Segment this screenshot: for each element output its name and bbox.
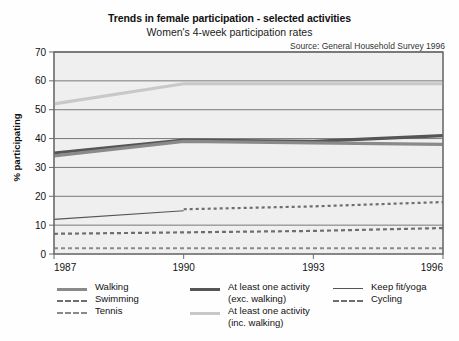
legend-label-line2: (exc. walking) [228, 293, 310, 305]
legend-label-line2: (inc. walking) [228, 317, 310, 329]
y-tick-label: 30 [35, 162, 47, 173]
x-tick-label: 1996 [421, 262, 444, 273]
legend-label[interactable]: At least one activity(exc. walking) [228, 281, 310, 304]
legend-swatch [57, 288, 87, 291]
legend-swatch [190, 312, 220, 315]
x-tick-label: 1990 [173, 262, 196, 273]
y-tick-label: 10 [35, 220, 47, 231]
chart-figure: Trends in female participation - selecte… [0, 0, 459, 341]
x-tick-label: 1987 [54, 262, 77, 273]
y-tick-label: 50 [35, 104, 47, 115]
legend-label[interactable]: Swimming [95, 293, 139, 305]
legend-label[interactable]: Tennis [95, 305, 122, 317]
legend-swatch [333, 288, 363, 289]
y-tick-label: 20 [35, 191, 47, 202]
legend-swatch [57, 312, 87, 314]
legend-label[interactable]: Cycling [371, 293, 402, 305]
y-tick-label: 70 [35, 47, 47, 58]
legend-swatch [333, 300, 363, 302]
y-tick-label: 0 [40, 249, 46, 260]
legend-swatch [190, 288, 220, 291]
y-tick-label: 40 [35, 133, 47, 144]
x-tick-label: 1993 [302, 262, 325, 273]
legend-label[interactable]: At least one activity(inc. walking) [228, 305, 310, 328]
y-tick-label: 60 [35, 75, 47, 86]
legend-label[interactable]: Walking [95, 281, 128, 293]
legend-label[interactable]: Keep fit/yoga [371, 281, 426, 293]
legend-swatch [57, 300, 87, 302]
